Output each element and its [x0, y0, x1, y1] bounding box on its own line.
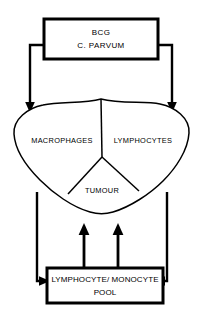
stimulus-box[interactable]: BCG C. PARVUM [44, 19, 158, 59]
stimulus-box-outline [44, 19, 158, 59]
connector-stimulus-to-macrophages [25, 45, 45, 113]
macrophages-to-pool-line [37, 192, 42, 281]
connector-pool-to-tumour-left [79, 223, 90, 268]
diagram-canvas: BCG C. PARVUM MACROPHAGES LYMPHOCYTES TU… [0, 0, 205, 318]
connector-stimulus-to-lymphocytes [157, 45, 177, 113]
diagram-root: BCG C. PARVUM MACROPHAGES LYMPHOCYTES TU… [0, 0, 205, 318]
cell-mass-region-macrophages: MACROPHAGES [31, 136, 93, 145]
pool-box-line2: POOL [94, 288, 117, 297]
stimulus-box-line1: BCG [92, 28, 111, 37]
cell-mass[interactable]: MACROPHAGES LYMPHOCYTES TUMOUR [14, 99, 189, 214]
connector-pool-to-tumour-right [113, 223, 124, 268]
pool-to-tumour-right-arrowhead [113, 223, 124, 235]
stimulus-box-line2: C. PARVUM [77, 41, 124, 50]
pool-box[interactable]: LYMPHOCYTE/ MONOCYTE POOL [47, 268, 163, 303]
cell-mass-region-tumour: TUMOUR [85, 186, 119, 195]
cell-mass-region-lymphocytes: LYMPHOCYTES [114, 136, 173, 145]
pool-box-outline [47, 268, 163, 303]
cell-mass-divider-top [101, 99, 102, 157]
pool-box-line1: LYMPHOCYTE/ MONOCYTE [51, 275, 158, 284]
pool-to-tumour-left-arrowhead [79, 223, 90, 235]
